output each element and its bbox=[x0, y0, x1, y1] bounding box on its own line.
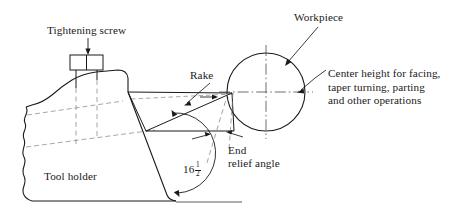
workpiece-arrow-icon bbox=[285, 59, 292, 66]
holder-hidden-edge-lower bbox=[26, 130, 155, 147]
center-height-line-3: and other operations bbox=[328, 94, 440, 108]
angle-fraction: 1 2 bbox=[195, 162, 201, 178]
angle-numerator: 1 bbox=[196, 162, 200, 170]
center-height-arrow-icon bbox=[297, 88, 304, 93]
end-relief-reference-line bbox=[206, 93, 228, 166]
end-relief-leader-right bbox=[230, 133, 243, 137]
angle-whole-number: 16 bbox=[183, 163, 194, 176]
insert-top-edge bbox=[128, 92, 232, 93]
angle-arc-icon bbox=[173, 113, 216, 193]
end-relief-angle-label: End relief angle bbox=[228, 144, 280, 170]
rake-direction-arrow-icon bbox=[212, 95, 218, 100]
relief-angle-value-label: 16 1 2 bbox=[183, 161, 201, 177]
rake-label: Rake bbox=[190, 69, 213, 82]
end-relief-leader-left bbox=[192, 135, 207, 139]
center-height-leader-line bbox=[301, 70, 326, 90]
tool-holder-top-contour bbox=[26, 70, 128, 107]
insert-left-face bbox=[128, 92, 146, 131]
angle-arc-arrow-top-icon bbox=[172, 110, 178, 117]
center-height-line-2: taper turning, parting bbox=[328, 81, 440, 95]
break-line-icon bbox=[23, 107, 32, 201]
angle-denominator: 2 bbox=[195, 170, 201, 179]
workpiece-label: Workpiece bbox=[294, 11, 343, 24]
rake-arrow-icon bbox=[184, 101, 191, 106]
insert-top-hidden-edge bbox=[131, 94, 233, 99]
center-height-label: Center height for facing, taper turning,… bbox=[328, 67, 440, 108]
end-relief-line-1: End bbox=[228, 144, 280, 157]
end-relief-line-2: relief angle bbox=[228, 157, 280, 170]
center-height-line-1: Center height for facing, bbox=[328, 67, 440, 81]
tightening-screw-label: Tightening screw bbox=[47, 24, 126, 37]
holder-hidden-edge-upper bbox=[27, 101, 123, 115]
lathe-tool-holder-diagram: Tightening screw Workpiece Rake Tool hol… bbox=[0, 0, 453, 220]
end-face-vertical-reference bbox=[229, 93, 233, 150]
angle-arc-arrow-bottom-icon bbox=[174, 190, 180, 197]
down-arrow-icon bbox=[85, 49, 90, 55]
insert-side-edge-upper bbox=[146, 93, 232, 131]
tool-holder-label: Tool holder bbox=[44, 170, 97, 183]
workpiece-leader-line bbox=[288, 27, 318, 62]
